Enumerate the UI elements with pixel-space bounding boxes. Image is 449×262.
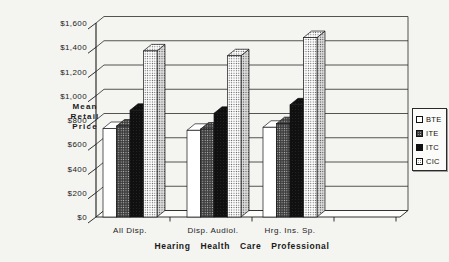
- bar-ite-3: [277, 124, 291, 217]
- bar-cic-1: [144, 51, 158, 217]
- y-axis-tick-label: $200: [68, 188, 87, 197]
- legend-swatch-itc: [416, 144, 423, 151]
- bar-ite-2: [201, 129, 215, 217]
- legend: BTE ITE ITC CIC: [412, 108, 447, 171]
- y-axis-tick: [88, 169, 96, 175]
- bar-cic-1-side-shade: [157, 44, 165, 217]
- y-axis-tick: [88, 47, 96, 53]
- y-axis-tick-label: $0: [77, 213, 87, 222]
- legend-swatch-ite: [416, 130, 423, 137]
- y-axis-tick: [88, 217, 96, 223]
- legend-item-ite: ITE: [416, 126, 446, 140]
- bar-cic-2-side-shade: [241, 49, 249, 217]
- gridline: [96, 65, 408, 72]
- bar-bte-3: [263, 127, 277, 217]
- x-axis-title: Hearing Health Care Professional: [155, 241, 330, 251]
- bar-cic-2: [228, 56, 242, 217]
- legend-label: BTE: [426, 115, 442, 124]
- gridline: [96, 17, 408, 24]
- y-axis-tick-label: $1,200: [60, 67, 87, 76]
- y-axis-tick: [88, 144, 96, 150]
- bar-cic-3: [304, 38, 318, 217]
- y-axis-title-line: Retail: [71, 112, 100, 121]
- y-axis-tick-label: $400: [68, 164, 87, 173]
- y-axis-title-line: Price: [72, 122, 98, 131]
- bar-itc-1: [130, 110, 144, 217]
- category-label: Hrg. Ins. Sp.: [265, 226, 316, 235]
- y-axis-tick: [88, 193, 96, 199]
- legend-label: CIC: [426, 157, 440, 166]
- bar-cic-3-side-shade: [317, 31, 325, 217]
- gridline: [96, 89, 408, 96]
- bar-ite-1: [117, 126, 131, 217]
- legend-label: ITE: [426, 129, 439, 138]
- bar-itc-2: [214, 113, 228, 217]
- legend-item-cic: CIC: [416, 154, 446, 168]
- y-axis-tick-label: $1,400: [60, 43, 87, 52]
- y-axis-tick: [88, 23, 96, 29]
- y-axis-title-line: Mean: [72, 102, 97, 111]
- y-axis-tick: [88, 72, 96, 78]
- y-axis-tick-label: $600: [68, 140, 87, 149]
- bar-bte-2: [187, 130, 201, 217]
- bar-bte-1: [103, 128, 117, 217]
- legend-swatch-cic: [416, 158, 423, 165]
- price-bar-chart: [0, 0, 449, 262]
- gridline: [96, 41, 408, 48]
- bar-itc-3: [290, 105, 304, 217]
- legend-swatch-bte: [416, 116, 423, 123]
- legend-item-itc: ITC: [416, 140, 446, 154]
- legend-label: ITC: [426, 143, 439, 152]
- category-label: All Disp.: [113, 226, 147, 235]
- legend-item-bte: BTE: [416, 112, 446, 126]
- y-axis-tick-label: $1,000: [60, 91, 87, 100]
- y-axis-tick-label: $1,600: [60, 19, 87, 28]
- category-label: Disp. Audiol.: [188, 226, 239, 235]
- chart-page: $0 $200 $400 $600 $800 $1,000 $1,200 $1,…: [0, 0, 449, 262]
